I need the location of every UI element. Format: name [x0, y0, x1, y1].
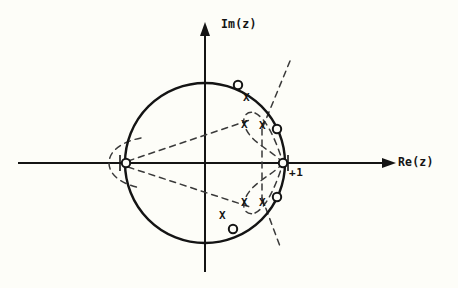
real-axis-arrowhead — [382, 158, 396, 168]
imaginary-axis-label: Im(z) — [221, 17, 257, 31]
z-plane-plot — [0, 0, 458, 288]
imag-axis-arrowhead — [200, 22, 210, 36]
zero-marker — [273, 193, 281, 201]
pole-marker: X — [259, 120, 266, 131]
zero-marker — [273, 125, 281, 133]
pole-marker: X — [259, 197, 266, 208]
real-axis-label: Re(z) — [398, 155, 434, 169]
pole-marker: X — [241, 119, 248, 130]
zero-marker — [234, 81, 242, 89]
unit-tick-label: +1 — [289, 166, 303, 179]
zero-marker — [279, 159, 287, 167]
pole-marker: X — [243, 92, 250, 103]
dashed-chord-upper — [128, 120, 250, 161]
zero-marker — [229, 225, 237, 233]
dashed-construction-group — [109, 61, 290, 249]
pole-marker: X — [219, 210, 226, 221]
pole-zero-figure: Im(z) Re(z) +1 X X X X X X — [0, 0, 458, 288]
pole-marker: X — [241, 197, 248, 208]
zero-marker — [122, 159, 130, 167]
axes-group — [18, 22, 396, 272]
dashed-diagonal-upper — [262, 61, 290, 129]
dashed-chord-lower — [128, 167, 250, 207]
